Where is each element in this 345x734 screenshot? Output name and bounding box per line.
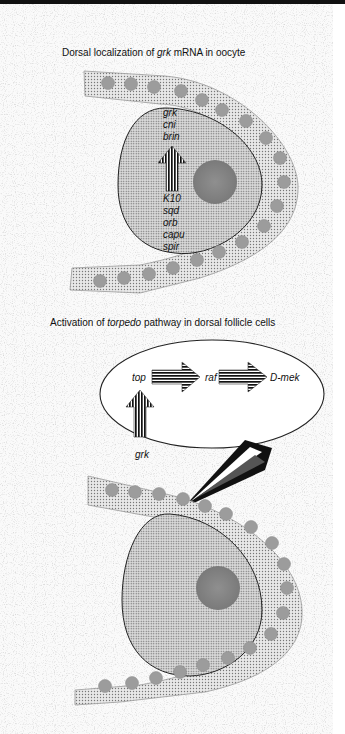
pathway-raf-label: raf <box>205 372 218 383</box>
gene-label: K10 <box>163 193 181 204</box>
gene-label: orb <box>163 217 178 228</box>
pathway-grk-label: grk <box>135 449 150 460</box>
top-panel-title: Dorsal localization of grk mRNA in oocyt… <box>62 47 246 58</box>
gene-label: grk <box>163 107 178 118</box>
bottom-panel-title: Activation of torpedo pathway in dorsal … <box>50 317 275 328</box>
gene-label: capu <box>163 229 185 240</box>
gene-label: cni <box>163 119 177 130</box>
callout-ellipse <box>100 340 324 448</box>
gene-label: sqd <box>163 205 180 216</box>
pathway-top-label: top <box>132 372 146 383</box>
gene-label: spir <box>163 241 180 252</box>
gene-label: brin <box>163 131 180 142</box>
oocyte-nucleus-bottom <box>196 566 240 610</box>
oocyte-nucleus-top <box>193 160 237 204</box>
pathway-dmek-label: D-mek <box>270 372 300 383</box>
oogenesis-diagram: Dorsal localization of grk mRNA in oocyt… <box>0 0 345 734</box>
